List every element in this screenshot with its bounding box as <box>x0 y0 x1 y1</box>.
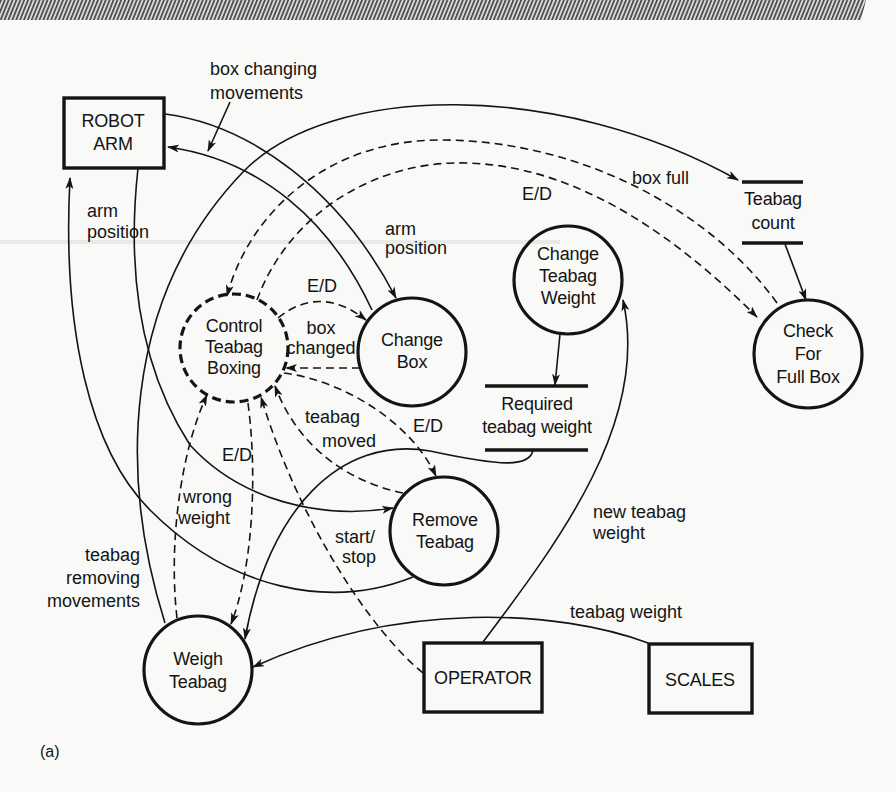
teabag-boxing-data-flow-diagram: box changing movements arm position arm … <box>0 0 896 792</box>
header-hatch-band <box>0 0 866 20</box>
flow-label: movements <box>210 83 303 103</box>
flow-label: removing <box>66 568 140 588</box>
flow-label: moved <box>322 431 376 451</box>
flow-label: position <box>87 222 149 242</box>
node-label: Teabag <box>744 189 802 209</box>
node-label: Change <box>381 330 443 350</box>
node-label: teabag weight <box>482 417 592 437</box>
terminator-scales: SCALES <box>649 644 752 713</box>
flow-arm-position-to-change-box: arm position <box>165 114 447 298</box>
node-label: ARM <box>93 134 132 154</box>
flow-label: new teabag <box>593 502 686 522</box>
flow-teabag-count-to-check <box>785 244 806 300</box>
node-label: Control <box>206 316 263 336</box>
flow-teabag-weight: teabag weight <box>253 602 682 667</box>
flow-new-teabag-weight: new teabag weight <box>483 300 686 642</box>
flow-label: start/ <box>335 527 375 547</box>
flow-required-to-weigh <box>245 449 533 639</box>
flow-label: wrong <box>182 487 232 507</box>
node-label: Box <box>397 352 428 372</box>
label-pointer-arrow <box>208 102 230 151</box>
flow-label: teabag <box>305 407 360 427</box>
flow-label: E/D <box>522 184 552 204</box>
store-required-teabag-weight: Required teabag weight <box>482 386 592 450</box>
flow-label: E/D <box>222 445 252 465</box>
process-remove-teabag: Remove Teabag <box>390 477 498 585</box>
flow-label: box full <box>632 168 689 188</box>
flow-label: arm <box>87 201 118 221</box>
node-label: Full Box <box>776 367 840 387</box>
flow-label: position <box>385 238 447 258</box>
node-label: Teabag <box>539 266 597 286</box>
terminator-operator: OPERATOR <box>424 643 542 712</box>
flow-wrong-weight: wrong weight <box>174 395 232 618</box>
flow-change-weight-to-required <box>555 334 560 385</box>
flow-label: movements <box>47 591 140 611</box>
node-label: For <box>795 344 822 364</box>
scan-artifact-line <box>0 240 560 244</box>
flow-label: box changing <box>210 59 317 79</box>
node-label: ROBOT <box>81 111 144 131</box>
process-check-for-full-box: Check For Full Box <box>754 300 862 408</box>
node-label: OPERATOR <box>434 668 532 688</box>
store-teabag-count: Teabag count <box>742 182 803 243</box>
node-label: Teabag <box>416 532 474 552</box>
flow-label: box <box>306 318 335 338</box>
flow-label: E/D <box>307 276 337 296</box>
node-label: Teabag <box>205 337 263 357</box>
node-label: Weight <box>541 288 596 308</box>
figure-caption: (a) <box>40 743 60 760</box>
flow-label: stop <box>342 547 376 567</box>
flow-label: arm <box>385 219 416 239</box>
control-process-control-teabag-boxing: Control Teabag Boxing <box>180 294 288 402</box>
flow-label: teabag <box>85 545 140 565</box>
flow-label: teabag weight <box>570 602 682 622</box>
process-change-box: Change Box <box>358 298 466 406</box>
node-label: Required <box>501 394 572 414</box>
flow-box-changed: box changed <box>286 318 360 368</box>
flow-label: weight <box>177 508 230 528</box>
node-label: Remove <box>412 510 478 530</box>
process-change-teabag-weight: Change Teabag Weight <box>514 226 622 334</box>
flow-label: weight <box>592 523 645 543</box>
node-label: Check <box>783 321 834 341</box>
node-label: Weigh <box>173 649 223 669</box>
node-label: count <box>751 213 794 233</box>
flow-teabag-moved: teabag moved <box>275 386 403 493</box>
node-label: Change <box>537 244 599 264</box>
process-weigh-teabag: Weigh Teabag <box>144 616 252 724</box>
node-label: SCALES <box>665 670 735 690</box>
flow-label: changed <box>286 338 355 358</box>
node-label: Boxing <box>207 358 261 378</box>
node-label: Teabag <box>169 672 227 692</box>
flow-ed-to-change-box: E/D <box>278 276 366 320</box>
flow-label: E/D <box>413 416 443 436</box>
terminator-robot-arm: ROBOT ARM <box>64 98 164 168</box>
